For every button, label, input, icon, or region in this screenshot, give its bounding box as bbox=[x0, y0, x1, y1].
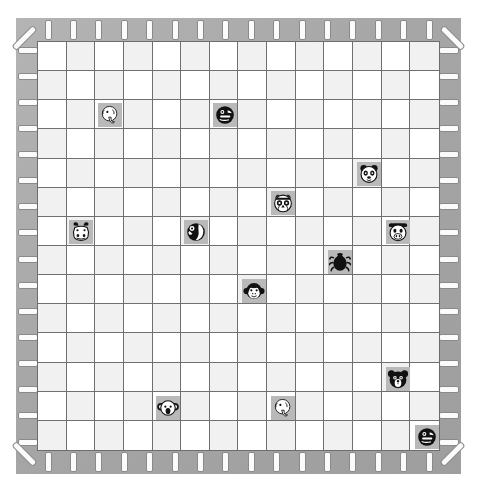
grid-cell[interactable] bbox=[95, 333, 124, 362]
grid-cell[interactable] bbox=[324, 275, 353, 304]
grid-cell[interactable] bbox=[38, 333, 67, 362]
grid-cell[interactable] bbox=[296, 246, 325, 275]
grid-cell[interactable] bbox=[267, 42, 296, 71]
grid-cell[interactable] bbox=[67, 159, 96, 188]
grid-cell[interactable] bbox=[382, 333, 411, 362]
grid-cell[interactable] bbox=[181, 304, 210, 333]
grid-cell[interactable] bbox=[67, 246, 96, 275]
grid-cell[interactable] bbox=[67, 275, 96, 304]
grid-cell[interactable] bbox=[124, 188, 153, 217]
grid-cell[interactable] bbox=[382, 71, 411, 100]
grid-cell[interactable] bbox=[238, 71, 267, 100]
grid-cell[interactable] bbox=[181, 42, 210, 71]
grid-cell[interactable] bbox=[410, 275, 439, 304]
grid-cell[interactable] bbox=[124, 333, 153, 362]
grid-cell[interactable] bbox=[382, 188, 411, 217]
grid-cell[interactable] bbox=[382, 275, 411, 304]
grid-cell[interactable] bbox=[153, 129, 182, 158]
grid-cell[interactable] bbox=[210, 392, 239, 421]
grid-cell[interactable] bbox=[95, 42, 124, 71]
grid-cell[interactable] bbox=[353, 421, 382, 450]
grid-cell[interactable] bbox=[95, 304, 124, 333]
grid-cell[interactable] bbox=[181, 392, 210, 421]
grid-cell[interactable] bbox=[210, 42, 239, 71]
grid-cell[interactable] bbox=[324, 42, 353, 71]
grid-cell[interactable] bbox=[324, 421, 353, 450]
grid-cell[interactable] bbox=[238, 392, 267, 421]
grid-cell[interactable] bbox=[324, 129, 353, 158]
grid-cell[interactable] bbox=[296, 304, 325, 333]
grid-cell[interactable] bbox=[153, 304, 182, 333]
grid-cell[interactable] bbox=[124, 71, 153, 100]
grid-cell[interactable] bbox=[124, 129, 153, 158]
grid-cell[interactable] bbox=[67, 188, 96, 217]
token-parrot[interactable] bbox=[184, 220, 208, 244]
grid-cell[interactable] bbox=[95, 421, 124, 450]
grid-cell[interactable] bbox=[324, 100, 353, 129]
grid-cell[interactable] bbox=[267, 363, 296, 392]
token-beetle[interactable] bbox=[328, 250, 352, 274]
grid-cell[interactable] bbox=[38, 246, 67, 275]
grid-cell[interactable] bbox=[124, 275, 153, 304]
grid-cell[interactable] bbox=[238, 363, 267, 392]
grid-cell[interactable] bbox=[67, 42, 96, 71]
grid-cell[interactable] bbox=[238, 129, 267, 158]
grid-cell[interactable] bbox=[181, 71, 210, 100]
grid-cell[interactable] bbox=[324, 333, 353, 362]
grid-cell[interactable] bbox=[67, 363, 96, 392]
grid-cell[interactable] bbox=[410, 392, 439, 421]
grid-cell[interactable] bbox=[153, 333, 182, 362]
grid-cell[interactable] bbox=[296, 275, 325, 304]
grid-cell[interactable] bbox=[296, 71, 325, 100]
grid-cell[interactable] bbox=[296, 392, 325, 421]
grid-cell[interactable] bbox=[353, 304, 382, 333]
grid-cell[interactable] bbox=[181, 188, 210, 217]
grid-cell[interactable] bbox=[296, 363, 325, 392]
token-seal[interactable] bbox=[213, 103, 237, 127]
grid-cell[interactable] bbox=[153, 246, 182, 275]
token-owl[interactable] bbox=[271, 191, 295, 215]
grid-cell[interactable] bbox=[210, 333, 239, 362]
grid-cell[interactable] bbox=[267, 71, 296, 100]
grid-cell[interactable] bbox=[210, 363, 239, 392]
grid-cell[interactable] bbox=[38, 42, 67, 71]
grid-cell[interactable] bbox=[153, 217, 182, 246]
grid-cell[interactable] bbox=[95, 363, 124, 392]
grid-cell[interactable] bbox=[67, 71, 96, 100]
grid-cell[interactable] bbox=[410, 333, 439, 362]
grid-cell[interactable] bbox=[238, 421, 267, 450]
grid-cell[interactable] bbox=[38, 188, 67, 217]
grid-cell[interactable] bbox=[353, 246, 382, 275]
grid-cell[interactable] bbox=[296, 42, 325, 71]
grid-cell[interactable] bbox=[267, 129, 296, 158]
grid-cell[interactable] bbox=[353, 188, 382, 217]
grid-cell[interactable] bbox=[181, 333, 210, 362]
grid-cell[interactable] bbox=[296, 159, 325, 188]
grid-cell[interactable] bbox=[181, 246, 210, 275]
grid-cell[interactable] bbox=[210, 421, 239, 450]
grid-cell[interactable] bbox=[95, 392, 124, 421]
grid-cell[interactable] bbox=[353, 129, 382, 158]
grid-cell[interactable] bbox=[410, 42, 439, 71]
grid-cell[interactable] bbox=[38, 363, 67, 392]
grid-cell[interactable] bbox=[181, 421, 210, 450]
grid-cell[interactable] bbox=[267, 304, 296, 333]
grid-cell[interactable] bbox=[410, 217, 439, 246]
grid-cell[interactable] bbox=[353, 392, 382, 421]
grid-cell[interactable] bbox=[210, 246, 239, 275]
grid-cell[interactable] bbox=[124, 100, 153, 129]
grid-cell[interactable] bbox=[210, 129, 239, 158]
grid-cell[interactable] bbox=[38, 71, 67, 100]
grid-cell[interactable] bbox=[95, 159, 124, 188]
grid-cell[interactable] bbox=[210, 304, 239, 333]
grid-cell[interactable] bbox=[153, 159, 182, 188]
grid-cell[interactable] bbox=[353, 333, 382, 362]
token-elephant[interactable] bbox=[98, 103, 122, 127]
grid-cell[interactable] bbox=[153, 275, 182, 304]
grid-cell[interactable] bbox=[296, 421, 325, 450]
grid-cell[interactable] bbox=[267, 333, 296, 362]
grid-cell[interactable] bbox=[238, 246, 267, 275]
grid-cell[interactable] bbox=[38, 129, 67, 158]
grid-cell[interactable] bbox=[38, 100, 67, 129]
grid-cell[interactable] bbox=[210, 188, 239, 217]
